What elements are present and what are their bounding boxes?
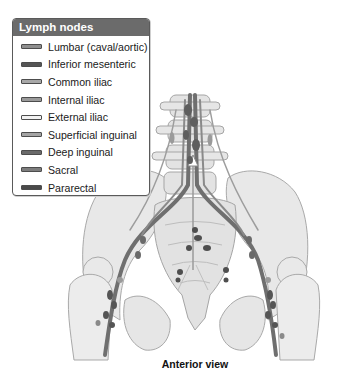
swatch-icon (21, 97, 42, 102)
legend-item-pararectal: Pararectal (13, 179, 149, 196)
legend-label: Pararectal (48, 182, 96, 194)
lymph-nodes-legend: Lymph nodes Lumbar (caval/aortic) Inferi… (12, 18, 150, 196)
swatch-icon (21, 115, 42, 120)
legend-label: Lumbar (caval/aortic) (48, 41, 148, 53)
legend-label: Superficial inguinal (48, 129, 137, 141)
swatch-icon (21, 79, 42, 84)
swatch-icon (21, 62, 42, 67)
legend-item-common-iliac: Common iliac (13, 73, 149, 91)
right-femur (276, 257, 320, 360)
legend-label: Inferior mesenteric (48, 58, 136, 70)
legend-item-external-iliac: External iliac (13, 108, 149, 126)
legend-label: Common iliac (48, 76, 112, 88)
legend-label: Sacral (48, 164, 78, 176)
legend-list: Lumbar (caval/aortic) Inferior mesenteri… (13, 36, 149, 196)
legend-item-lumbar: Lumbar (caval/aortic) (13, 38, 149, 56)
legend-item-internal-iliac: Internal iliac (13, 91, 149, 109)
legend-label: External iliac (48, 111, 108, 123)
legend-item-superficial-inguinal: Superficial inguinal (13, 126, 149, 144)
swatch-icon (21, 44, 42, 49)
swatch-icon (21, 150, 42, 155)
figure-caption: Anterior view (0, 358, 345, 370)
legend-item-inferior-mesenteric: Inferior mesenteric (13, 56, 149, 74)
swatch-icon (21, 167, 42, 172)
legend-title: Lymph nodes (13, 19, 149, 36)
legend-item-deep-inguinal: Deep inguinal (13, 144, 149, 162)
legend-label: Internal iliac (48, 94, 105, 106)
legend-item-sacral: Sacral (13, 161, 149, 179)
legend-label: Deep inguinal (48, 146, 113, 158)
swatch-icon (21, 132, 42, 137)
swatch-icon (21, 185, 42, 190)
